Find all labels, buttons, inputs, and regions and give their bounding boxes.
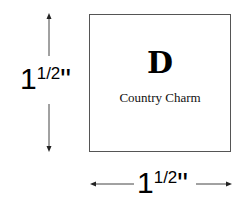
- height-label: 11/2": [20, 62, 71, 96]
- width-label: 11/2": [136, 168, 189, 198]
- width-whole: 1: [137, 166, 154, 199]
- height-unit: ": [60, 62, 71, 95]
- height-fraction: 1/2: [37, 64, 61, 83]
- charm-name: Country Charm: [90, 90, 230, 106]
- width-fraction: 1/2: [154, 168, 178, 187]
- width-unit: ": [177, 166, 188, 199]
- charm-square: D Country Charm: [89, 14, 231, 152]
- charm-letter: D: [90, 48, 230, 78]
- height-whole: 1: [20, 62, 37, 95]
